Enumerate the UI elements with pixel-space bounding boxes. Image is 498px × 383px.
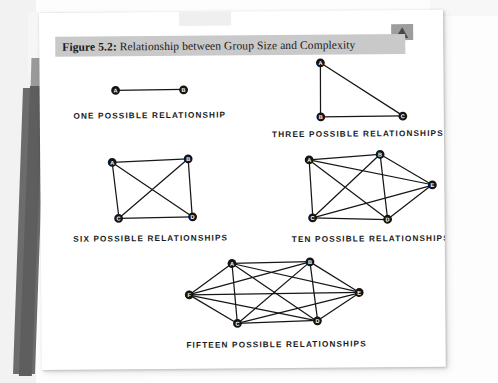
node-letter-B: B	[308, 259, 312, 265]
graph-edge-AC	[232, 263, 237, 323]
graphs-svg: ABONE POSSIBLE RELATIONSHIPABCTHREE POSS…	[39, 54, 445, 370]
graph-label-six-node: FIFTEEN POSSIBLE RELATIONSHIPS	[186, 339, 366, 349]
page-tab-artifact-left	[179, 11, 231, 25]
graph-node-C: C	[308, 213, 317, 222]
graph-node-A: A	[108, 158, 117, 167]
graph-edge-BD	[380, 154, 387, 219]
graph-edge-AC	[309, 160, 313, 219]
graph-edge-BE	[310, 261, 359, 292]
graph-node-C: C	[114, 214, 123, 223]
graph-node-F: F	[185, 290, 194, 299]
graph-node-B: B	[316, 112, 325, 121]
graph-label-three-node: THREE POSSIBLE RELATIONSHIPS	[272, 129, 444, 139]
graph-edge-CD	[313, 217, 388, 220]
graph-label-two-node: ONE POSSIBLE RELATIONSHIP	[73, 111, 226, 121]
graph-node-A: A	[228, 259, 237, 268]
graph-node-A: A	[111, 86, 120, 95]
graph-node-B: B	[306, 257, 315, 266]
node-letter-D: D	[315, 318, 319, 324]
node-letter-A: A	[114, 88, 118, 94]
graph-edge-AB	[232, 262, 310, 264]
graph-node-E: E	[428, 180, 437, 189]
node-letter-A: A	[318, 60, 322, 66]
node-letter-C: C	[117, 216, 121, 222]
graph-node-D: D	[188, 212, 197, 221]
graph-edge-AB	[309, 154, 380, 159]
graph-five-node: ABCDETEN POSSIBLE RELATIONSHIPS	[291, 149, 446, 244]
graph-edge-DE	[317, 293, 360, 321]
figure-caption-bar: Figure 5.2: Relationship between Group S…	[55, 34, 405, 57]
graph-node-C: C	[398, 112, 407, 121]
book-page: Figure 5.2: Relationship between Group S…	[39, 10, 446, 370]
graph-edge-AB	[116, 89, 184, 90]
graph-label-five-node: TEN POSSIBLE RELATIONSHIPS	[292, 234, 446, 244]
graph-node-A: A	[305, 155, 314, 164]
graph-node-A: A	[316, 58, 325, 67]
node-letter-E: E	[430, 182, 434, 188]
graph-six-node: ABCDEFFIFTEEN POSSIBLE RELATIONSHIPS	[185, 257, 367, 350]
graph-edge-BD	[188, 159, 192, 217]
graph-node-E: E	[355, 288, 364, 297]
graph-edge-AB	[112, 159, 188, 162]
node-letter-C: C	[235, 321, 239, 327]
graph-edge-CF	[189, 294, 238, 324]
graph-node-B: B	[179, 85, 188, 94]
graph-node-C: C	[233, 319, 242, 328]
graph-edge-BC	[118, 159, 188, 218]
graph-node-B: B	[376, 150, 385, 159]
node-letter-C: C	[401, 113, 405, 119]
node-letter-B: B	[378, 152, 382, 158]
graph-edge-AB	[320, 63, 321, 117]
graph-edge-BD	[310, 262, 318, 321]
graph-four-node: ABCDSIX POSSIBLE RELATIONSHIPS	[73, 154, 229, 244]
node-letter-A: A	[307, 157, 311, 163]
figure-caption-label: Figure 5.2:	[62, 40, 117, 52]
node-letter-D: D	[191, 214, 195, 220]
graph-edge-BC	[321, 116, 403, 117]
node-letter-D: D	[386, 216, 390, 222]
node-letter-A: A	[110, 160, 114, 166]
graph-two-node: ABONE POSSIBLE RELATIONSHIP	[73, 85, 226, 121]
node-letter-B: B	[319, 114, 323, 120]
node-letter-E: E	[357, 290, 361, 296]
graph-edge-CD	[119, 217, 193, 219]
node-letter-C: C	[311, 215, 315, 221]
graph-groups: ABONE POSSIBLE RELATIONSHIPABCTHREE POSS…	[72, 57, 446, 350]
graph-node-D: D	[383, 215, 392, 224]
page-content: Figure 5.2: Relationship between Group S…	[39, 10, 446, 370]
graph-edge-AC	[320, 62, 403, 116]
graph-edge-BE	[380, 154, 432, 185]
node-letter-F: F	[187, 292, 191, 298]
graph-node-B: B	[184, 154, 193, 163]
figure-caption: Figure 5.2: Relationship between Group S…	[62, 39, 355, 53]
figure-caption-title: Relationship between Group Size and Comp…	[117, 39, 356, 53]
graph-edge-AF	[189, 263, 232, 295]
screenshot-root: Figure 5.2: Relationship between Group S…	[0, 0, 498, 383]
graph-edge-BF	[189, 262, 310, 295]
node-letter-A: A	[230, 261, 234, 267]
graph-edge-AC	[112, 162, 119, 218]
node-letter-B: B	[182, 87, 186, 93]
graph-node-D: D	[313, 316, 322, 325]
graph-label-four-node: SIX POSSIBLE RELATIONSHIPS	[73, 234, 228, 244]
figure-illustration: ABONE POSSIBLE RELATIONSHIPABCTHREE POSS…	[39, 54, 445, 370]
node-letter-B: B	[186, 156, 190, 162]
graph-edge-DE	[387, 185, 432, 219]
graph-three-node: ABCTHREE POSSIBLE RELATIONSHIPS	[272, 57, 444, 139]
